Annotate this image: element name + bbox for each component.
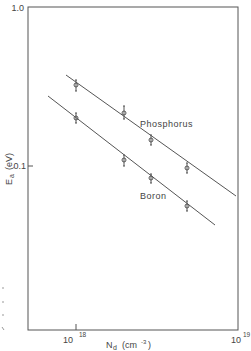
data-point	[74, 113, 78, 123]
series-label-boron: Boron	[140, 191, 167, 201]
svg-text:(cm: (cm	[122, 340, 137, 350]
chart-canvas: 1.0 0.1 10 18 10 19 N d (cm -3 ) E a (eV…	[0, 0, 251, 351]
margin-marks	[2, 288, 4, 330]
y-tick-label-mid: 0.1	[13, 161, 26, 171]
boron-fit-line	[48, 96, 215, 225]
y-tick-label-top: 1.0	[11, 3, 24, 13]
data-point	[149, 174, 153, 183]
x-tick-label-1e19-base: 10	[231, 335, 241, 345]
svg-text:a: a	[8, 174, 15, 178]
x-axis-label: N d (cm -3 )	[106, 339, 151, 351]
svg-text:(eV): (eV)	[4, 153, 14, 170]
svg-text:N: N	[106, 340, 113, 350]
svg-text:-3: -3	[141, 339, 147, 345]
svg-text:d: d	[113, 344, 117, 351]
series-label-phosphorus: Phosphorus	[140, 119, 193, 129]
svg-text:E: E	[4, 179, 14, 185]
data-point	[185, 163, 189, 173]
svg-text:): )	[148, 340, 151, 350]
data-point	[122, 155, 126, 166]
y-axis-label: E a (eV)	[4, 153, 15, 185]
x-tick-label-1e19-exp: 19	[243, 331, 251, 338]
x-tick-label-1e18-exp: 18	[79, 331, 87, 338]
x-tick-label-1e18-base: 10	[63, 335, 73, 345]
plot-frame	[28, 7, 238, 330]
